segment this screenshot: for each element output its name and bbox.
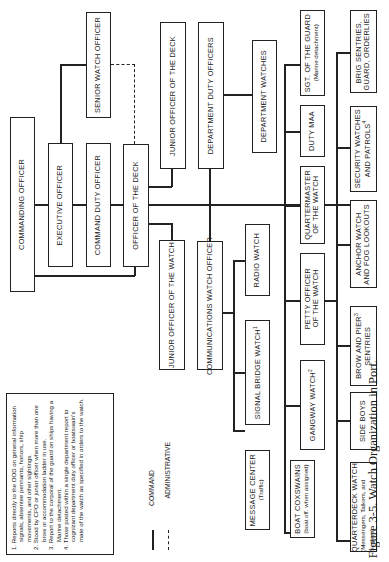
radio-watch-label: RADIO WATCH <box>253 233 261 287</box>
command-line-sgt <box>284 64 300 66</box>
command-line-far-right-branch <box>336 52 338 540</box>
message-center-box: MESSAGE CENTER(Traffic) <box>245 450 270 530</box>
commanding-officer-box: COMMANDING OFFICER <box>10 117 35 292</box>
junior-officer-of-the-watch-label: JUNIOR OFFICER OF THE WATCH <box>168 242 176 368</box>
command-line-xo-swo <box>60 64 62 144</box>
footnote-2: 2. Stood by CPO or junior officer when m… <box>32 398 47 550</box>
anchor-watch-label: ANCHOR WATCHAND FOG LOOKOUTS <box>355 204 372 285</box>
footnote-3: 3. Report to the corporal of the guard o… <box>47 398 62 550</box>
command-line-ood-jood <box>148 186 172 188</box>
command-line-signal <box>233 372 245 374</box>
legend-administrative-label: ADMINISTRATIVE <box>164 442 171 499</box>
figure-caption: Figure 3-5. Watch Organization in Port. <box>366 360 381 558</box>
junior-officer-of-the-deck-label: JUNIOR OFFICER OF THE DECK <box>169 36 177 156</box>
department-duty-officers-label: DEPARTMENT DUTY OFFICERS <box>207 37 215 154</box>
duty-maa-label: DUTY MAA <box>308 111 316 151</box>
sgt-of-the-guard-box: SGT. OF THE GUARD(Marine detachment) <box>300 10 325 96</box>
footnote-1: 1. Reports directly to the OOD on genera… <box>10 398 32 550</box>
officer-of-the-deck-label: OFFICER OF THE DECK <box>132 161 140 250</box>
radio-watch-box: RADIO WATCH <box>245 224 270 296</box>
commanding-officer-label: COMMANDING OFFICER <box>18 159 26 250</box>
command-line-pow-far <box>325 300 337 302</box>
signal-bridge-watch-label: SIGNAL BRIDGE WATCH1 <box>253 326 263 419</box>
command-line-swo-top <box>60 64 86 66</box>
command-line-maa <box>284 131 300 133</box>
command-line-pow <box>284 300 300 302</box>
command-line-brig <box>336 52 350 54</box>
boat-coxswains-box: BOAT COXSWAINS(boat off. when assigned) <box>290 460 315 538</box>
command-line-joow-v <box>171 223 173 241</box>
command-line-right-branch <box>284 64 286 534</box>
command-line-co-ood <box>34 275 135 277</box>
command-line-msg <box>233 430 245 432</box>
executive-officer-label: EXECUTIVE OFFICER <box>56 165 64 246</box>
senior-watch-officer-box: SENIOR WATCH OFFICER <box>86 12 111 118</box>
executive-officer-box: EXECUTIVE OFFICER <box>48 143 73 267</box>
command-line-radio <box>233 260 245 262</box>
sgt-of-the-guard-label: SGT. OF THE GUARD(Marine detachment) <box>304 14 321 92</box>
legend-command-line <box>152 530 154 550</box>
security-watches-box: SECURITY WATCHESAND PATROLS4 <box>350 106 377 192</box>
command-line-cwo-branch <box>233 312 235 430</box>
command-line-jood-v <box>171 168 173 187</box>
command-duty-officer-label: COMMAND DUTY OFFICER <box>94 155 102 255</box>
legend-administrative-line <box>168 530 169 550</box>
department-duty-officers-box: DEPARTMENT DUTY OFFICERS <box>198 22 224 169</box>
duty-maa-box: DUTY MAA <box>300 105 325 157</box>
brig-sentries-label: BRIG SENTRIES,GUARD, ORDERLIES <box>355 13 372 90</box>
command-line-gangway <box>284 405 300 407</box>
command-line-qd <box>336 540 350 542</box>
command-line-cwo-h <box>222 312 234 314</box>
signal-bridge-watch-box: SIGNAL BRIDGE WATCH1 <box>245 320 270 425</box>
admin-line-swo-ood <box>134 64 135 144</box>
command-line-security <box>336 147 350 149</box>
officer-of-the-deck-box: OFFICER OF THE DECK <box>123 144 149 267</box>
command-line-ood-joow <box>148 223 172 225</box>
security-watches-label: SECURITY WATCHESAND PATROLS4 <box>354 109 372 188</box>
command-line-sideboys <box>336 420 350 422</box>
junior-officer-of-the-deck-box: JUNIOR OFFICER OF THE DECK <box>160 22 186 169</box>
admin-line-swo-h <box>111 64 135 65</box>
boat-coxswains-label: BOAT COXSWAINS(boat off. when assigned) <box>294 464 311 534</box>
petty-officer-of-the-watch-label: PETTY OFFICEROF THE WATCH <box>304 268 321 329</box>
gangway-watch-label: GANGWAY WATCH2 <box>308 369 318 441</box>
footnotes-box: 1. Reports directly to the OOD on genera… <box>6 393 114 555</box>
petty-officer-of-the-watch-box: PETTY OFFICEROF THE WATCH <box>300 253 325 345</box>
command-line-ddo-dw <box>223 94 252 96</box>
footnote-4: 4. Those posted within a single departme… <box>62 398 84 550</box>
quartermaster-label: QUARTERMASTEROF THE WATCH <box>304 170 321 240</box>
command-line-radio-v <box>233 260 235 312</box>
message-center-label: MESSAGE CENTER(Traffic) <box>249 454 266 526</box>
legend-command-label: COMMAND <box>148 470 155 506</box>
communications-watch-officer-box: COMMUNICATIONS WATCH OFFICER <box>197 241 223 370</box>
command-line-ood-bottom <box>134 266 136 276</box>
command-line-brow <box>336 345 350 347</box>
anchor-watch-box: ANCHOR WATCHAND FOG LOOKOUTS <box>350 200 377 288</box>
command-line-ddo-cwo <box>209 169 211 242</box>
footnotes-text: 1. Reports directly to the OOD on genera… <box>10 398 110 550</box>
command-line-anchor <box>336 244 350 246</box>
communications-watch-officer-label: COMMUNICATIONS WATCH OFFICER <box>206 237 214 375</box>
department-watches-box: DEPARTMENT WATCHES <box>252 40 277 153</box>
command-line-qm <box>284 205 300 207</box>
quartermaster-of-the-watch-box: QUARTERMASTEROF THE WATCH <box>300 166 325 244</box>
junior-officer-of-the-watch-box: JUNIOR OFFICER OF THE WATCH <box>159 240 185 370</box>
department-watches-label: DEPARTMENT WATCHES <box>260 50 268 143</box>
gangway-watch-box: GANGWAY WATCH2 <box>300 360 325 450</box>
senior-watch-officer-label: SENIOR WATCH OFFICER <box>94 17 102 113</box>
command-duty-officer-box: COMMAND DUTY OFFICER <box>86 143 111 267</box>
brig-sentries-box: BRIG SENTRIES,GUARD, ORDERLIES <box>350 10 377 93</box>
